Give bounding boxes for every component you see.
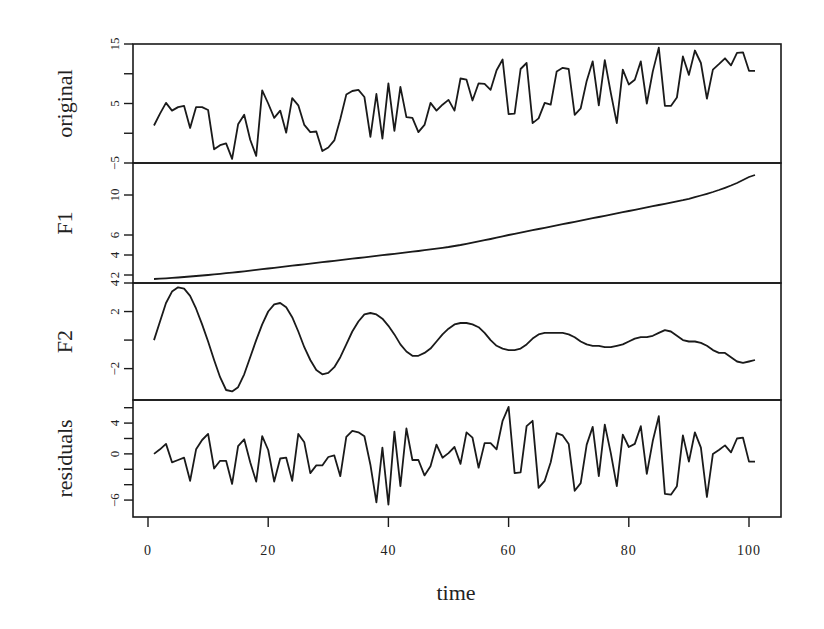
x-tick-label: 80 [621,543,637,558]
y-axis-label-original: original [52,69,77,137]
panel-f1: 24610F1 [52,163,781,283]
panel-original: −5515original [52,38,781,170]
y-tick-label: 2 [107,308,122,315]
y-tick-label: 2 [107,272,122,279]
y-axis-label-residuals: residuals [52,419,77,497]
x-tick-label: 20 [260,543,276,558]
panel-frame [133,400,781,517]
series-line-f2 [154,287,755,391]
chart-panels: −5515original24610F1−224F2−604residuals [52,38,781,518]
series-line-f1 [154,175,755,279]
y-tick-label: 15 [107,38,122,51]
y-tick-label: 4 [107,251,122,258]
x-axis: 020406080100time [144,517,761,605]
y-tick-label: −2 [107,362,122,376]
panel-residuals: −604residuals [52,400,781,517]
x-tick-label: 40 [380,543,396,558]
y-tick-label: 6 [107,231,122,238]
x-tick-label: 60 [501,543,517,558]
y-tick-label: 0 [107,451,122,458]
y-tick-label: 4 [107,279,122,286]
series-line-original [154,48,755,159]
y-tick-label: 4 [107,419,122,426]
y-tick-label: 10 [107,189,122,202]
panel-frame [133,163,781,283]
stl-decomposition-chart: −5515original24610F1−224F2−604residuals … [0,0,824,629]
panel-frame [133,283,781,400]
y-axis-label-f2: F2 [52,330,77,353]
series-line-residuals [154,407,755,505]
y-tick-label: −5 [107,156,122,170]
y-tick-label: 5 [107,100,122,107]
x-tick-label: 0 [144,543,152,558]
y-axis-label-f1: F1 [52,211,77,234]
x-tick-label: 100 [737,543,761,558]
y-tick-label: −6 [107,493,122,507]
panel-f2: −224F2 [52,279,781,400]
x-axis-label: time [436,580,475,605]
